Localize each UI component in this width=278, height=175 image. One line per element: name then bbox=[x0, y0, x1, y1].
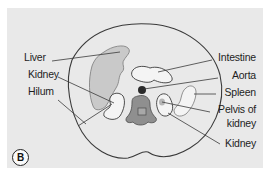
label-kidney-left: Kidney bbox=[28, 68, 59, 80]
panel-letter-badge: B bbox=[12, 149, 29, 166]
label-hilum: Hilum bbox=[28, 85, 54, 97]
label-intestine: Intestine bbox=[218, 51, 256, 63]
label-pelvis-line1: Pelvis of bbox=[218, 103, 256, 115]
right-kidney-shape bbox=[157, 94, 173, 116]
intestine-shape bbox=[132, 66, 173, 82]
leader-kidney-right bbox=[168, 113, 220, 144]
label-spleen: Spleen bbox=[225, 86, 257, 98]
label-liver: Liver bbox=[24, 51, 46, 63]
leader-intestine bbox=[158, 60, 212, 72]
label-aorta: Aorta bbox=[232, 69, 256, 81]
aorta-shape bbox=[138, 86, 146, 94]
label-kidney-right: Kidney bbox=[225, 137, 256, 149]
spleen-shape bbox=[174, 86, 196, 116]
leader-hilum bbox=[58, 100, 86, 124]
label-pelvis-line2: kidney bbox=[218, 117, 256, 129]
label-pelvis-of-kidney: Pelvis of kidney bbox=[218, 103, 256, 129]
spinal-canal bbox=[138, 108, 146, 115]
